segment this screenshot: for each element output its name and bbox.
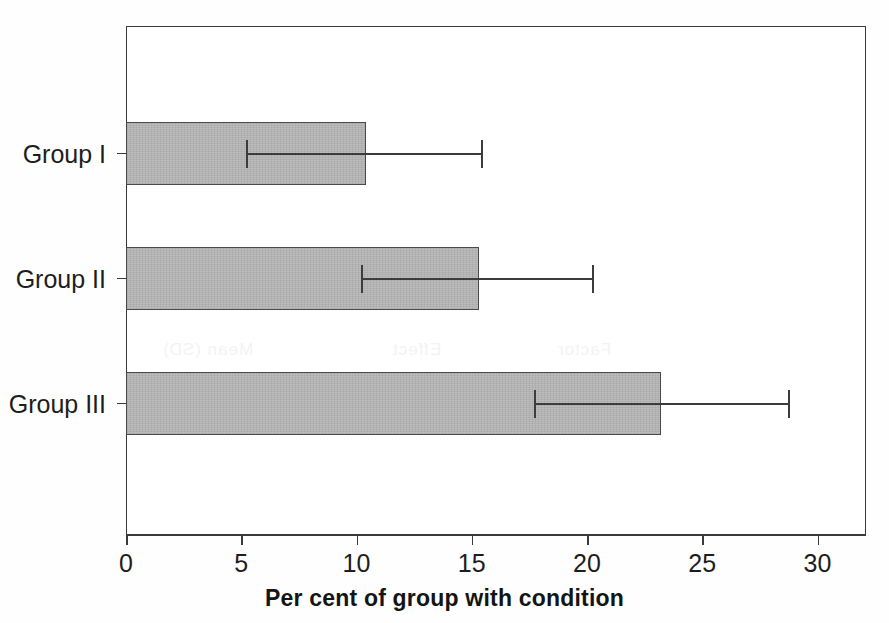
x-tick-label-25: 25 [672, 548, 732, 578]
error-bar-cap-high-3 [788, 390, 790, 418]
error-bar-line-1 [246, 153, 481, 155]
x-tick-15 [472, 534, 474, 545]
x-axis-title: Per cent of group with condition [0, 585, 889, 612]
error-bar-line-3 [534, 403, 788, 405]
bleed-through-text-row3: Factor [557, 340, 611, 360]
x-tick-label-20: 20 [557, 548, 617, 578]
x-axis-line [126, 534, 866, 536]
error-bar-cap-high-2 [592, 265, 594, 293]
x-tick-30 [818, 534, 820, 545]
y-axis-label-group-i: Group I [23, 139, 106, 169]
y-axis-label-group-iii: Group III [9, 389, 106, 419]
x-tick-label-0: 0 [96, 548, 156, 578]
error-bar-cap-low-2 [361, 265, 363, 293]
error-bar-cap-low-1 [246, 140, 248, 168]
x-tick-0 [126, 534, 128, 545]
x-tick-label-15: 15 [442, 548, 502, 578]
chart-page: Mean (SD) Effect Factor 051015202530 Gro… [0, 0, 889, 623]
x-tick-label-30: 30 [788, 548, 848, 578]
x-tick-20 [587, 534, 589, 545]
bleed-through-text-row1: Mean (SD) [162, 340, 253, 360]
x-tick-25 [702, 534, 704, 545]
y-tick-3 [117, 403, 127, 405]
y-axis-label-group-ii: Group II [16, 264, 106, 294]
x-tick-5 [241, 534, 243, 545]
error-bar-cap-low-3 [534, 390, 536, 418]
y-tick-1 [117, 153, 127, 155]
x-tick-label-10: 10 [327, 548, 387, 578]
error-bar-cap-high-1 [481, 140, 483, 168]
error-bar-line-2 [361, 278, 592, 280]
x-tick-label-5: 5 [211, 548, 271, 578]
x-tick-10 [357, 534, 359, 545]
bleed-through-text-row2: Effect [392, 340, 441, 360]
y-tick-2 [117, 278, 127, 280]
